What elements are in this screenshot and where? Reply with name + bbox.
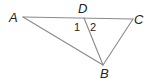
angle-label-1: 1 <box>74 21 80 33</box>
segment-cb <box>103 19 133 65</box>
point-label-d: D <box>78 1 87 16</box>
segment-ac <box>23 17 133 19</box>
triangle-diagram: A D C B 1 2 <box>0 0 147 82</box>
angle-label-2: 2 <box>90 21 96 33</box>
point-label-c: C <box>134 12 144 27</box>
point-label-b: B <box>100 66 109 81</box>
point-label-a: A <box>8 10 18 25</box>
